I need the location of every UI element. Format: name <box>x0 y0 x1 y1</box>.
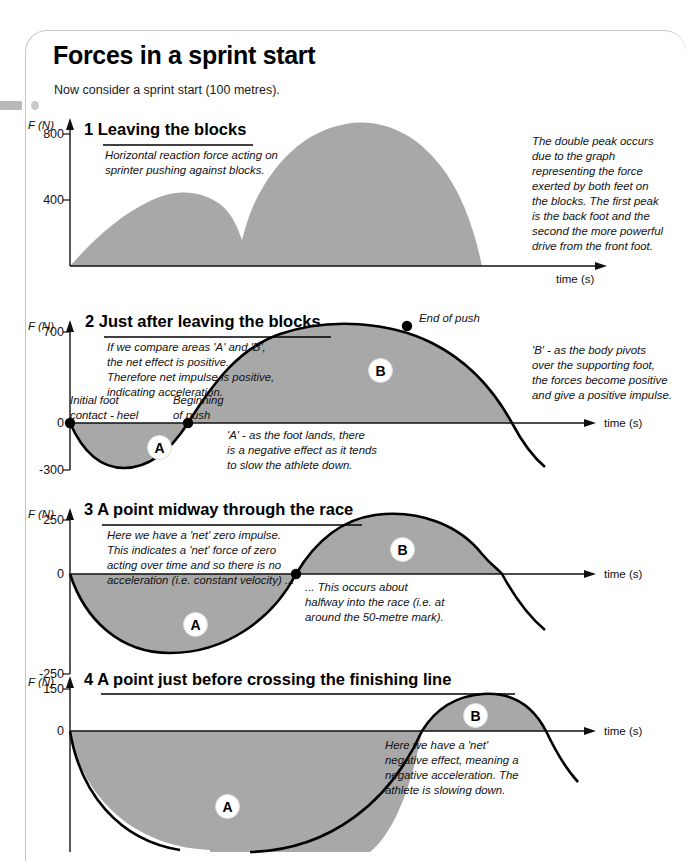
panel-2-x-axis-label: time (s) <box>604 417 642 429</box>
panel-2-number: 2 <box>85 312 94 330</box>
panel-4-chart <box>0 672 679 852</box>
panel-1-note-right: The double peak occurs due to the graph … <box>532 134 677 254</box>
panel-2-ytick-700: 700 <box>32 325 64 339</box>
panel-4-ytick-150: 150 <box>32 682 64 696</box>
panel-1-x-axis-arrow <box>595 262 607 270</box>
panel-2-note-area-a: 'A' - as the foot lands, there is a nega… <box>227 428 432 473</box>
panel-1-heading-text: Leaving the blocks <box>98 120 247 138</box>
panel-3-ytick-0: 0 <box>32 567 64 581</box>
panel-2-heading: 2 Just after leaving the blocks <box>85 312 321 331</box>
panel-2-dot-end-of-push <box>402 321 412 331</box>
panel-4-ytick-0: 0 <box>32 724 64 738</box>
panel-3-number: 3 <box>84 500 93 518</box>
panel-2-ytick-neg300: -300 <box>25 463 64 477</box>
panel-2-label-beginning-of-push: Beginning of push <box>173 393 224 423</box>
panel-3-heading-text: A point midway through the race <box>97 500 353 518</box>
panel-4-x-axis-label: time (s) <box>604 725 642 737</box>
panel-3-badge-b: B <box>390 537 415 562</box>
panel-3-ytick-250: 250 <box>32 513 64 527</box>
panel-4-area-a-fill <box>70 731 422 852</box>
panel-2-badge-a: A <box>147 435 172 460</box>
panel-3-x-axis-label: time (s) <box>604 568 642 580</box>
panel-1-x-axis-label: time (s) <box>556 273 594 285</box>
panel-2-ytick-0: 0 <box>32 416 64 430</box>
panel-2-y-axis-arrow <box>66 320 74 332</box>
panel-2-heading-text: Just after leaving the blocks <box>99 312 321 330</box>
panel-2-label-initial-contact: Initial foot contact - heel <box>70 393 138 423</box>
panel-4-heading: 4 A point just before crossing the finis… <box>84 670 451 689</box>
panel-2-x-axis-arrow <box>584 419 596 427</box>
panel-4-x-axis-arrow <box>584 727 596 735</box>
panel-1-area-fill <box>70 122 482 266</box>
panel-1-note-left: Horizontal reaction force acting on spri… <box>105 148 355 178</box>
panel-1-leaving-the-blocks: F (N) 800 400 1 Leaving the blocks Horiz… <box>0 0 679 290</box>
panel-2-label-end-of-push: End of push <box>419 311 480 326</box>
panel-4-badge-a: A <box>215 794 240 819</box>
panel-3-note-right: ... This occurs about halfway into the r… <box>305 580 505 625</box>
panel-2-badge-b: B <box>368 358 393 383</box>
panel-4-y-axis-arrow <box>66 676 74 688</box>
panel-2-note-left: If we compare areas 'A' and 'B', the net… <box>107 340 352 400</box>
panel-4-number: 4 <box>84 670 93 688</box>
panel-4-before-finishing-line: F (N) 150 0 4 A point just before crossi… <box>0 672 679 852</box>
panel-2-note-right: 'B' - as the body pivots over the suppor… <box>532 343 682 403</box>
panel-3-y-axis-arrow <box>66 508 74 520</box>
panel-1-number: 1 <box>84 120 93 138</box>
panel-3-midway-through-the-race: F (N) 250 0 -250 3 A point midway throug… <box>0 490 679 680</box>
panel-4-note-right: Here we have a 'net' negative effect, me… <box>385 738 575 798</box>
panel-4-heading-text: A point just before crossing the finishi… <box>97 670 451 688</box>
panel-1-ytick-400: 400 <box>32 193 64 207</box>
panel-3-heading: 3 A point midway through the race <box>84 500 353 519</box>
panel-1-y-axis-arrow <box>66 118 74 130</box>
panel-3-badge-a: A <box>183 612 208 637</box>
panel-2-just-after-leaving-the-blocks: F (N) 700 0 -300 2 Just after leaving th… <box>0 300 679 480</box>
panel-1-heading: 1 Leaving the blocks <box>84 120 246 139</box>
panel-3-x-axis-arrow <box>584 570 596 578</box>
panel-1-ytick-800: 800 <box>32 127 64 141</box>
panel-4-badge-b: B <box>463 703 488 728</box>
